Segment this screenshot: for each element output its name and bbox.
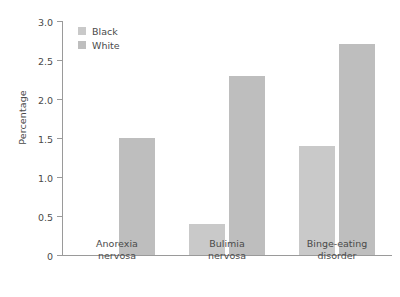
legend-label: Black [92,26,118,37]
legend-item-white[interactable]: White [78,38,120,52]
bar-chart: Percentage 3.02.52.01.51.00.50 Black Whi… [0,0,400,297]
bar-group [172,21,282,255]
y-axis-tick-label: 2.0 [38,94,53,105]
legend-swatch-icon [78,41,86,49]
bar[interactable] [339,44,375,255]
bar-group [62,21,172,255]
y-axis-tick-label: 3.0 [38,16,53,27]
legend-item-black[interactable]: Black [78,24,120,38]
y-axis-tick-label: 2.5 [38,55,53,66]
plot-area: 3.02.52.01.51.00.50 Black White [62,21,392,255]
legend: Black White [78,24,120,52]
y-axis-tick-label: 1.5 [38,133,53,144]
bar-groups [62,21,392,255]
bar-group [282,21,392,255]
legend-label: White [92,40,120,51]
x-axis-label: Bulimia nervosa [172,238,282,262]
x-axis-label: Anorexia nervosa [62,238,172,262]
x-axis-label: Binge-eating disorder [282,238,392,262]
y-axis-title: Percentage [17,58,28,178]
bar[interactable] [229,76,265,255]
legend-swatch-icon [78,27,86,35]
y-axis-tick-label: 0.5 [38,211,53,222]
y-axis-tick-label: 1.0 [38,172,53,183]
y-axis-tick-label: 0 [47,250,53,261]
